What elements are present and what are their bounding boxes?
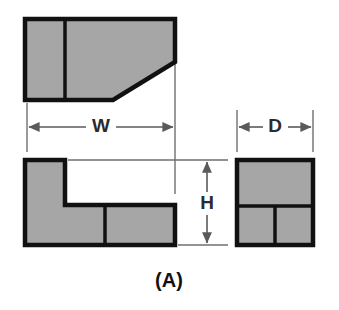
height-dimension-label: H xyxy=(200,192,214,213)
top-view-outline xyxy=(25,19,175,100)
width-dimension-label: W xyxy=(92,115,110,136)
right-side-view xyxy=(237,160,313,245)
orthographic-drawing: W D H (A) xyxy=(0,0,339,310)
depth-dimension: D xyxy=(239,115,311,136)
depth-dimension-label: D xyxy=(268,115,282,136)
top-view xyxy=(25,19,175,100)
width-dimension: W xyxy=(29,115,173,136)
height-dimension: H xyxy=(200,162,214,243)
front-view-outline xyxy=(25,160,175,245)
figure-container: W D H (A) xyxy=(0,0,339,310)
front-view xyxy=(25,160,175,245)
figure-label: (A) xyxy=(155,269,183,291)
